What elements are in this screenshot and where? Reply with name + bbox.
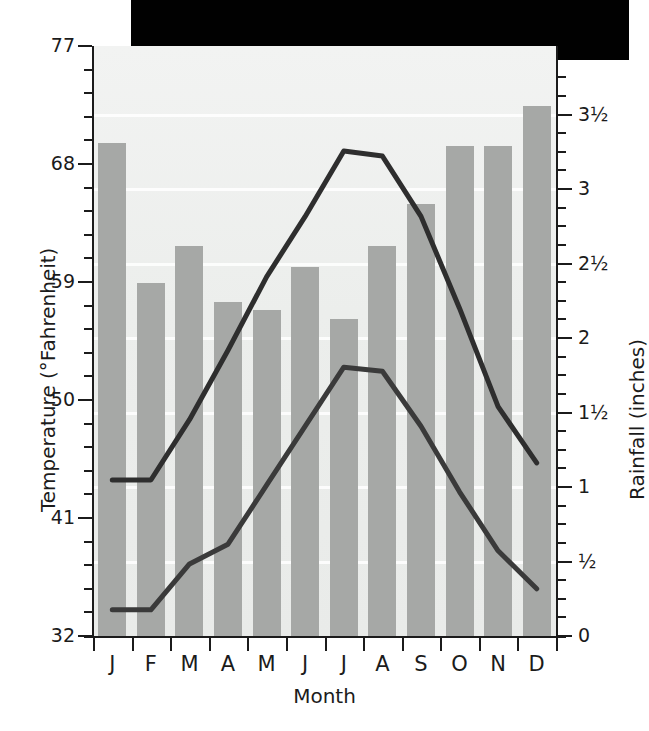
right-axis-major-tick <box>558 337 572 339</box>
right-axis-major-tick <box>558 114 572 116</box>
left-axis-major-tick <box>78 635 92 637</box>
temperature-lines <box>93 46 556 636</box>
x-axis-tick <box>363 638 365 651</box>
left-axis-tick-label: 32 <box>51 626 75 645</box>
right-axis-minor-tick <box>558 505 566 507</box>
left-axis-minor-tick <box>84 541 92 543</box>
right-axis-tick-label: 1 <box>578 477 590 496</box>
left-axis-tick-label: 68 <box>51 154 75 173</box>
x-axis-month-label: N <box>478 652 518 676</box>
x-axis-month-label: J <box>285 652 325 676</box>
left-axis-major-tick <box>78 517 92 519</box>
right-axis-minor-tick <box>558 318 566 320</box>
right-axis-tick-label: 0 <box>578 626 590 645</box>
left-axis-minor-tick <box>84 564 92 566</box>
right-axis-minor-tick <box>558 393 566 395</box>
climate-chart: 324150596877 0½11½22½33½ JFMAMJJASOND Te… <box>0 0 649 731</box>
right-axis-minor-tick <box>558 76 566 78</box>
right-axis-minor-tick <box>558 281 566 283</box>
left-axis-major-tick <box>78 163 92 165</box>
x-axis-tick <box>247 638 249 651</box>
left-axis-minor-tick <box>84 446 92 448</box>
x-axis-tick <box>517 638 519 651</box>
x-axis-month-label: A <box>362 652 402 676</box>
low-temperature-line <box>112 367 536 610</box>
right-axis-minor-tick <box>558 467 566 469</box>
x-axis-tick <box>209 638 211 651</box>
right-axis-minor-tick <box>558 598 566 600</box>
left-axis-minor-tick <box>84 588 92 590</box>
x-axis-month-label: M <box>247 652 287 676</box>
left-axis-minor-tick <box>84 470 92 472</box>
right-axis-minor-tick <box>558 542 566 544</box>
right-axis-tick-label: 2½ <box>578 254 609 273</box>
x-axis-tick <box>479 638 481 651</box>
right-axis-minor-tick <box>558 244 566 246</box>
left-axis-minor-tick <box>84 69 92 71</box>
right-axis-minor-tick <box>558 132 566 134</box>
x-axis-title: Month <box>0 684 649 708</box>
right-axis-minor-tick <box>558 616 566 618</box>
left-axis-line <box>92 46 94 638</box>
right-axis-minor-tick <box>558 430 566 432</box>
right-axis-title: Rainfall (inches) <box>625 339 649 500</box>
x-axis-month-label: D <box>517 652 557 676</box>
right-axis-line <box>556 46 558 638</box>
left-axis-minor-tick <box>84 210 92 212</box>
left-axis-minor-tick <box>84 375 92 377</box>
left-axis-major-tick <box>78 399 92 401</box>
left-axis-minor-tick <box>84 257 92 259</box>
left-axis-minor-tick <box>84 139 92 141</box>
x-axis-month-label: S <box>401 652 441 676</box>
x-axis-tick <box>556 638 558 651</box>
left-axis-tick-label: 77 <box>51 36 75 55</box>
left-axis-major-tick <box>78 281 92 283</box>
left-axis-minor-tick <box>84 352 92 354</box>
right-axis-minor-tick <box>558 356 566 358</box>
right-axis-tick-label: ½ <box>578 552 596 571</box>
x-axis-month-label: O <box>440 652 480 676</box>
left-axis-title: Temperature (°Fahrenheit) <box>36 248 60 512</box>
left-axis-minor-tick <box>84 234 92 236</box>
x-axis-month-label: J <box>324 652 364 676</box>
left-axis-minor-tick <box>84 423 92 425</box>
right-axis-minor-tick <box>558 523 566 525</box>
right-axis-major-tick <box>558 412 572 414</box>
x-axis-month-label: J <box>92 652 132 676</box>
right-axis-minor-tick <box>558 374 566 376</box>
left-axis-minor-tick <box>84 328 92 330</box>
plot-area <box>93 46 556 636</box>
right-axis-minor-tick <box>558 225 566 227</box>
x-axis-tick <box>132 638 134 651</box>
right-axis-tick-label: 3½ <box>578 105 609 124</box>
right-axis-minor-tick <box>558 449 566 451</box>
right-axis-minor-tick <box>558 151 566 153</box>
x-axis-tick <box>170 638 172 651</box>
x-axis-tick <box>402 638 404 651</box>
x-axis-month-label: A <box>208 652 248 676</box>
right-axis-minor-tick <box>558 169 566 171</box>
x-axis-tick <box>286 638 288 651</box>
right-axis-minor-tick <box>558 207 566 209</box>
x-axis-tick <box>325 638 327 651</box>
left-axis-minor-tick <box>84 611 92 613</box>
left-axis-minor-tick <box>84 305 92 307</box>
right-axis-tick-label: 1½ <box>578 403 609 422</box>
right-axis-tick-label: 3 <box>578 179 590 198</box>
right-axis-minor-tick <box>558 300 566 302</box>
left-axis-minor-tick <box>84 187 92 189</box>
right-axis-minor-tick <box>558 579 566 581</box>
left-axis-minor-tick <box>84 493 92 495</box>
right-axis-major-tick <box>558 263 572 265</box>
x-axis-month-label: F <box>131 652 171 676</box>
right-axis-minor-tick <box>558 95 566 97</box>
right-axis-major-tick <box>558 188 572 190</box>
left-axis-minor-tick <box>84 116 92 118</box>
left-axis-major-tick <box>78 45 92 47</box>
x-axis-month-label: M <box>169 652 209 676</box>
right-axis-tick-label: 2 <box>578 328 590 347</box>
right-axis-major-tick <box>558 486 572 488</box>
left-axis-minor-tick <box>84 92 92 94</box>
x-axis-tick <box>93 638 95 651</box>
x-axis-tick <box>440 638 442 651</box>
